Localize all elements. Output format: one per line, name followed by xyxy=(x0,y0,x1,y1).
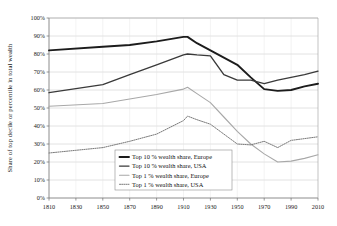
y-tick-label: 20% xyxy=(34,158,45,165)
x-tick-label: 2010 xyxy=(312,203,324,210)
x-tick-label: 1950 xyxy=(231,203,243,210)
y-axis-title-text: Share of top decile or percentile in tot… xyxy=(6,43,13,172)
legend-label-2: Top 10 % wealth share, USA xyxy=(132,162,207,169)
y-tick-label: 10% xyxy=(34,176,45,183)
wealth-share-line-chart: 0%10%20%30%40%50%60%70%80%90%100% 181018… xyxy=(0,0,337,226)
legend-label-3: Top 1 % wealth share, Europe xyxy=(132,172,209,179)
y-tick-label: 80% xyxy=(34,50,45,57)
x-tick-label: 1810 xyxy=(43,203,55,210)
chart-legend[interactable]: Top 10 % wealth share, EuropeTop 10 % we… xyxy=(115,150,232,190)
y-axis-tick-labels: 0%10%20%30%40%50%60%70%80%90%100% xyxy=(31,14,45,201)
chart-figure: 0%10%20%30%40%50%60%70%80%90%100% 181018… xyxy=(0,0,337,226)
legend-label-4: Top 1 % wealth share, USA xyxy=(132,181,204,188)
y-tick-label: 50% xyxy=(34,104,45,111)
y-tick-label: 60% xyxy=(34,86,45,93)
x-tick-label: 1930 xyxy=(204,203,216,210)
x-tick-label: 1850 xyxy=(97,203,109,210)
y-tick-label: 0% xyxy=(37,194,45,201)
x-tick-label: 1890 xyxy=(150,203,162,210)
x-axis-tick-labels: 1810183018501870189019101930195019701990… xyxy=(43,203,324,210)
x-tick-label: 1990 xyxy=(285,203,297,210)
x-tick-label: 1870 xyxy=(124,203,136,210)
y-axis-title: Share of top decile or percentile in tot… xyxy=(6,43,13,172)
y-tick-label: 90% xyxy=(34,32,45,39)
legend-label-1: Top 10 % wealth share, Europe xyxy=(132,153,212,160)
x-tick-label: 1830 xyxy=(70,203,82,210)
y-tick-label: 70% xyxy=(34,68,45,75)
x-tick-label: 1910 xyxy=(177,203,189,210)
y-tick-label: 100% xyxy=(31,14,45,21)
y-tick-label: 40% xyxy=(34,122,45,129)
x-tick-label: 1970 xyxy=(258,203,270,210)
y-tick-label: 30% xyxy=(34,140,45,147)
